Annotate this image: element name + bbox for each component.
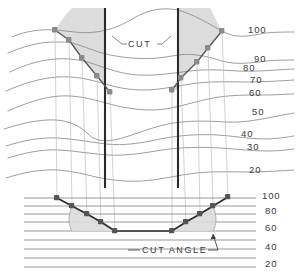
data-marker <box>107 89 112 94</box>
cut-leader-left <box>112 36 127 44</box>
projection-line-8 <box>197 62 200 214</box>
scale-label-80-1: 80 <box>265 205 277 216</box>
data-marker <box>94 73 99 78</box>
contour-label-100-0: 100 <box>248 24 267 35</box>
cross-section-diagram: CUT <box>0 0 298 278</box>
data-marker <box>197 211 202 216</box>
data-marker <box>79 55 84 60</box>
cut-annotation: CUT <box>112 36 171 49</box>
cut-angle-arrowhead <box>211 234 217 240</box>
projection-line-5 <box>110 92 115 231</box>
data-marker <box>183 219 188 224</box>
projection-line-1 <box>55 30 57 198</box>
scale-label-20-4: 20 <box>265 258 277 269</box>
contour-label-20-8: 20 <box>249 164 261 175</box>
data-marker <box>225 194 230 199</box>
data-marker <box>205 45 210 50</box>
data-marker <box>66 37 71 42</box>
data-marker <box>69 203 74 208</box>
data-marker <box>219 28 224 33</box>
cut-angle-annotation: CUT ANGLE <box>128 234 218 255</box>
data-marker <box>194 59 199 64</box>
contour-label-60-4: 60 <box>249 87 261 98</box>
cut-leader-right <box>157 36 171 44</box>
contour-label-80-2: 80 <box>243 62 255 73</box>
scale-label-40-3: 40 <box>265 241 277 252</box>
shaded-regions <box>55 8 222 92</box>
contour-label-70-3: 70 <box>250 74 262 85</box>
projection-line-9 <box>208 48 213 206</box>
projection-line-3 <box>82 58 87 214</box>
data-marker <box>169 87 174 92</box>
contour-label-40-6: 40 <box>241 128 253 139</box>
data-marker <box>98 219 103 224</box>
scale-label-60-2: 60 <box>265 222 277 233</box>
cut-angle-label: CUT ANGLE <box>142 245 207 255</box>
data-marker <box>84 211 89 216</box>
upper-contour-labels: 1009080706050403020 <box>241 24 267 175</box>
cut-label: CUT <box>128 39 151 49</box>
data-marker <box>210 203 215 208</box>
scale-label-100-0: 100 <box>262 190 281 201</box>
contour-label-30-7: 30 <box>247 141 259 152</box>
lower-scale-lines <box>24 198 256 267</box>
projection-line-7 <box>181 78 186 222</box>
cut-walls <box>105 8 178 188</box>
diagram-canvas: CUT <box>0 0 298 278</box>
data-marker <box>54 195 59 200</box>
data-marker <box>178 75 183 80</box>
lower-scale-labels: 10080604020 <box>262 190 281 269</box>
data-marker <box>112 228 117 233</box>
cut-angle-wedges <box>69 206 216 231</box>
projection-line-4 <box>97 76 101 222</box>
contour-label-90-1: 90 <box>254 53 266 64</box>
data-marker <box>52 27 57 32</box>
data-marker <box>169 228 174 233</box>
contour-label-50-5: 50 <box>252 106 264 117</box>
